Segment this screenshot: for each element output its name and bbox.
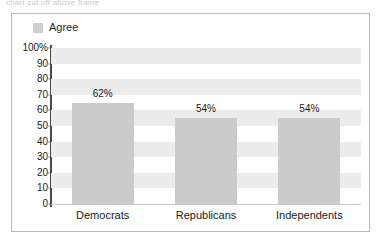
y-axis-tick-mark	[47, 126, 50, 127]
y-axis-tick-label: 60	[12, 105, 48, 115]
bar	[72, 103, 134, 204]
y-axis-tick-label: 10	[12, 183, 48, 193]
y-axis-tick-mark	[47, 48, 50, 49]
y-axis-tick-label: 80	[12, 74, 48, 84]
y-axis-tick-mark	[47, 172, 50, 173]
legend-label-agree: Agree	[49, 22, 78, 33]
x-axis-line	[51, 204, 361, 205]
bar-value-label: 62%	[93, 89, 113, 99]
y-axis-tick-mark	[47, 141, 50, 142]
bar-value-label: 54%	[196, 104, 216, 114]
bar-value-label: 54%	[299, 104, 319, 114]
chart-screenshot: chart cut off above frame Agree 100%9080…	[0, 0, 381, 242]
y-axis-tick-label: 50	[12, 121, 48, 131]
y-axis-tick-label: 40	[12, 137, 48, 147]
x-axis-category-label: Republicans	[176, 209, 237, 222]
chart-legend: Agree	[33, 22, 78, 33]
cropped-caption-strip: chart cut off above frame	[6, 0, 236, 6]
y-axis-tick-mark	[47, 94, 50, 95]
y-axis-tick-mark	[47, 188, 50, 189]
y-axis-tick-label: 30	[12, 152, 48, 162]
y-axis-tick-label: 100%	[12, 43, 48, 53]
y-axis-tick-mark	[47, 157, 50, 158]
chart-frame: Agree 100%9080706050403020100 62%54%54% …	[11, 13, 370, 232]
y-axis-tick-labels: 100%9080706050403020100	[12, 48, 48, 204]
y-axis-tick-mark	[47, 79, 50, 80]
y-axis-tick-label: 70	[12, 90, 48, 100]
x-axis-category-labels: DemocratsRepublicansIndependents	[51, 209, 361, 225]
y-axis-tick-mark	[47, 204, 50, 205]
plot-area: 62%54%54%	[51, 48, 361, 204]
x-axis-category-label: Independents	[276, 209, 343, 222]
x-axis-category-label: Democrats	[76, 209, 129, 222]
y-axis-tick-mark	[47, 110, 50, 111]
y-axis-tick-mark	[47, 63, 50, 64]
y-axis-tick-label: 0	[12, 199, 48, 209]
plot-band	[51, 48, 361, 64]
y-axis-tick-label: 90	[12, 59, 48, 69]
y-axis-tick-label: 20	[12, 168, 48, 178]
bar	[175, 118, 237, 204]
bar	[278, 118, 340, 204]
legend-swatch-agree-icon	[33, 23, 43, 33]
